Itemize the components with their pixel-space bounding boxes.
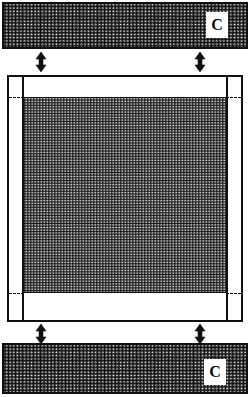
central-frame xyxy=(7,75,243,322)
gap-arrow-top-left xyxy=(32,52,50,72)
gap-arrow-top-right xyxy=(191,52,209,72)
upper-plate-c-label: C xyxy=(206,12,228,38)
frame-right-divider xyxy=(226,77,228,320)
upper-hatched-plate: C xyxy=(2,2,248,49)
gap-arrow-bottom-left xyxy=(32,324,50,344)
datum-line-bottom-right xyxy=(226,293,241,294)
central-hatched-core xyxy=(24,97,226,293)
lower-hatched-plate: C xyxy=(2,343,248,394)
datum-line-top-left xyxy=(9,97,24,98)
lower-plate-c-label: C xyxy=(204,359,226,385)
datum-line-top-right xyxy=(226,97,241,98)
datum-line-bottom-left xyxy=(9,293,24,294)
diagram-canvas: C C xyxy=(0,0,250,397)
gap-arrow-bottom-right xyxy=(191,324,209,344)
